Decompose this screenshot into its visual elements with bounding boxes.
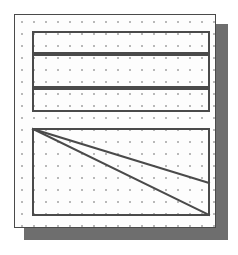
band-top-rect[interactable] [33, 32, 209, 53]
band-middle-rect[interactable] [33, 55, 209, 87]
page-sheet [14, 14, 216, 228]
diagonal-lower-line[interactable] [33, 129, 209, 215]
diagram-canvas [0, 0, 238, 255]
diagonal-upper-line[interactable] [33, 129, 209, 183]
band-bottom-rect[interactable] [33, 89, 209, 111]
shapes-svg [15, 15, 215, 227]
shapes-layer [15, 15, 215, 227]
